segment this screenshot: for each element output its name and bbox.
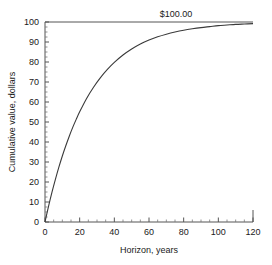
x-tick-label: 0: [42, 227, 47, 237]
y-tick-label: 20: [29, 177, 39, 187]
x-tick-label: 60: [144, 227, 154, 237]
cumulative-value-line-chart: 0102030405060708090100 020406080100120 $…: [0, 0, 272, 265]
y-tick-label: 0: [34, 217, 39, 227]
plot-frame: [45, 22, 253, 222]
x-axis-tick-labels: 020406080100120: [42, 227, 260, 237]
y-tick-label: 90: [29, 37, 39, 47]
y-tick-label: 70: [29, 77, 39, 87]
x-tick-label: 100: [211, 227, 226, 237]
y-tick-label: 30: [29, 157, 39, 167]
y-tick-label: 50: [29, 117, 39, 127]
y-tick-label: 80: [29, 57, 39, 67]
x-tick-label: 120: [245, 227, 260, 237]
y-axis-tick-labels: 0102030405060708090100: [24, 17, 39, 227]
y-tick-label: 40: [29, 137, 39, 147]
x-tick-label: 40: [109, 227, 119, 237]
x-tick-label: 20: [75, 227, 85, 237]
x-axis-title: Horizon, years: [120, 245, 179, 255]
y-tick-label: 60: [29, 97, 39, 107]
cumulative-value-curve: [45, 24, 253, 222]
y-axis-title: Cumulative value, dollars: [7, 71, 17, 172]
chart-figure: 0102030405060708090100 020406080100120 $…: [0, 0, 272, 265]
y-tick-label: 10: [29, 197, 39, 207]
x-axis-major-ticks: [45, 218, 253, 223]
y-tick-label: 100: [24, 17, 39, 27]
x-tick-label: 80: [179, 227, 189, 237]
asymptote-annotation-label: $100.00: [160, 9, 193, 19]
